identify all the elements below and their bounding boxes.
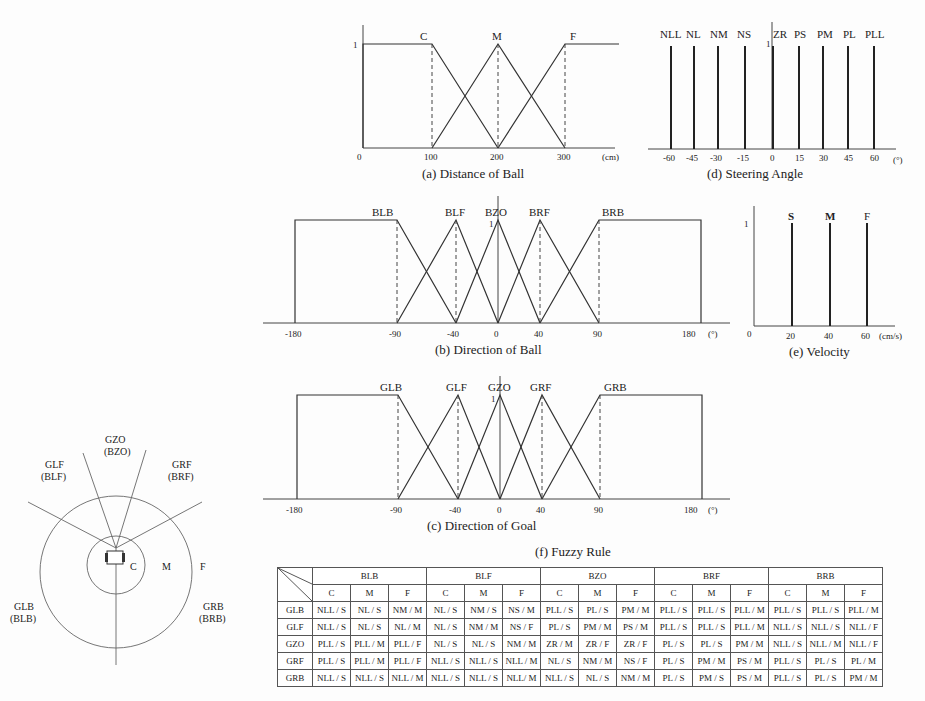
x-tick: -180	[286, 505, 303, 515]
rule-cell: NS / F	[617, 653, 655, 670]
zone-label-top-left: GLF	[45, 459, 64, 470]
rule-cell: PLL / M	[731, 619, 769, 636]
label-m: M	[825, 210, 836, 222]
goal-row-header: GZO	[278, 636, 313, 653]
ball-group-header: BRB	[769, 568, 883, 585]
x-tick: 180	[682, 329, 696, 339]
rule-cell: PLL / S	[693, 619, 731, 636]
caption-b: (b) Direction of Ball	[435, 342, 542, 357]
rule-cell: PM / M	[693, 653, 731, 670]
label-grb: GRB	[604, 381, 627, 393]
table-row: GLBNLL / SNL / SNM / MNL / SNM / SNS / M…	[278, 602, 883, 619]
label-blf: BLF	[445, 206, 465, 218]
rule-cell: NLL / S	[351, 670, 389, 687]
rule-cell: NM / M	[617, 670, 655, 687]
rule-cell: NLL / S	[769, 619, 807, 636]
x-tick: 20	[786, 331, 796, 341]
chart-distance-of-ball: 1 C M F 0 100 200 300 (cm) (a) Distance …	[340, 0, 640, 190]
rule-cell: NL / M	[389, 619, 427, 636]
x-tick: 45	[844, 153, 854, 163]
rule-cell: NLL / F	[845, 619, 883, 636]
label-nll: NLL	[660, 28, 682, 40]
table-row: GLFNLL / SNL / SNL / MNL / SNM / MNS / F…	[278, 619, 883, 636]
rule-cell: PLL / S	[313, 636, 351, 653]
label-m: M	[492, 30, 502, 42]
rule-cell: PLL / M	[351, 653, 389, 670]
goal-row-header: GLF	[278, 619, 313, 636]
x-tick: 200	[490, 152, 504, 162]
label-ns: NS	[737, 28, 751, 40]
label-blb: BLB	[372, 206, 393, 218]
distance-col-header: C	[541, 585, 579, 602]
distance-col-header: C	[769, 585, 807, 602]
rule-cell: PM / M	[617, 602, 655, 619]
caption-e: (e) Velocity	[789, 344, 850, 359]
caption-c: (c) Direction of Goal	[427, 518, 537, 533]
rule-cell: PM / M	[845, 670, 883, 687]
chart-steering-angle: 1 NLL NL NM NS ZR PS PM PL PLL -60 -45 -…	[640, 0, 925, 190]
goal-row-header: GLB	[278, 602, 313, 619]
rule-cell: NLL / S	[465, 653, 503, 670]
robot-icon	[105, 551, 125, 564]
rule-cell: ZR / M	[541, 636, 579, 653]
x-unit: (°)	[708, 505, 718, 515]
rule-cell: PL / M	[845, 653, 883, 670]
rule-cell: PLL / S	[769, 653, 807, 670]
y-tick-1: 1	[766, 39, 771, 49]
x-unit: (°)	[708, 329, 718, 339]
zone-label-top: GZO	[105, 434, 126, 445]
x-tick: -90	[389, 329, 401, 339]
fuzzy-rule-table: BLB BLF BZO BRF BRB CMFCMFCMFCMFCMF GLBN…	[277, 567, 883, 687]
label-pll: PLL	[865, 28, 885, 40]
y-tick-1: 1	[491, 394, 496, 404]
rule-cell: NLL / M	[807, 636, 845, 653]
rule-cell: PS / M	[731, 670, 769, 687]
chart-velocity: 1 S M F 0 20 40 60 (cm/s) (e) Velocity	[740, 190, 925, 365]
distance-col-header: C	[427, 585, 465, 602]
rule-cell: PL / S	[693, 636, 731, 653]
x-tick: 0	[497, 505, 502, 515]
rule-cell: PM / M	[579, 619, 617, 636]
x-tick: -45	[686, 153, 698, 163]
rule-cell: PL / S	[655, 636, 693, 653]
distance-col-header: M	[579, 585, 617, 602]
x-tick: 180	[684, 505, 698, 515]
x-tick: 90	[594, 505, 604, 515]
label-c: C	[420, 30, 427, 42]
distance-col-header: F	[845, 585, 883, 602]
rule-cell: PL / S	[541, 619, 579, 636]
goal-row-header: GRF	[278, 653, 313, 670]
distance-col-header: F	[503, 585, 541, 602]
x-tick: 0	[770, 153, 775, 163]
zone-label-bottom-right: GRB	[203, 601, 224, 612]
x-tick: -90	[390, 505, 402, 515]
rule-cell: NL / S	[351, 602, 389, 619]
x-tick: -30	[710, 153, 722, 163]
table-row: GZOPLL / SPLL / MPLL / FNL / SNL / SNM /…	[278, 636, 883, 653]
distance-col-header: M	[351, 585, 389, 602]
x-tick: 60	[861, 331, 871, 341]
rule-cell: NL / S	[465, 636, 503, 653]
ball-group-header: BZO	[541, 568, 655, 585]
x-unit: (cm)	[602, 152, 619, 162]
zone-label-bottom-right-alt: (BRB)	[199, 613, 226, 625]
x-tick: 0	[357, 152, 362, 162]
x-tick: 0	[494, 329, 499, 339]
distance-col-header: M	[465, 585, 503, 602]
rule-table-title: (f) Fuzzy Rule	[535, 544, 611, 560]
x-tick: 300	[557, 152, 571, 162]
ring-label-m: M	[162, 561, 171, 572]
distance-col-header: F	[617, 585, 655, 602]
label-f: F	[570, 30, 576, 42]
zone-label-top-right: GRF	[172, 459, 192, 470]
rule-cell: ZR / F	[579, 636, 617, 653]
x-unit: (cm/s)	[879, 331, 902, 341]
x-tick: 0	[747, 329, 752, 339]
distance-header-row: CMFCMFCMFCMFCMF	[278, 585, 883, 602]
rule-cell: NM / M	[389, 602, 427, 619]
x-tick: 15	[795, 153, 805, 163]
chart-direction-of-goal: 1 GLB GLF GZO GRF GRB -180 -90 -40 0 40 …	[250, 370, 740, 540]
rule-cell: PL / S	[807, 653, 845, 670]
zone-label-top-alt: (BZO)	[104, 446, 131, 458]
table-row: GRFPLL / SPLL / MPLL / FNLL / SNLL / SNL…	[278, 653, 883, 670]
